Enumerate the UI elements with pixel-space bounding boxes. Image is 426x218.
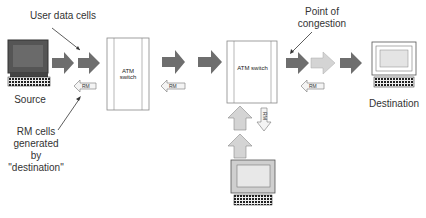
- rm-tag: RM: [169, 83, 177, 89]
- data-arrow-icon: [78, 52, 100, 74]
- atm-switch-1-label: ATM switch: [114, 68, 142, 80]
- data-arrow-icon: [162, 50, 185, 74]
- data-arrow-icon: [340, 52, 362, 74]
- data-arrow-icon: [52, 52, 74, 74]
- data-arrow-icon: [198, 50, 222, 74]
- rm-cells-label-line3: "destination": [8, 162, 64, 174]
- pointer-arrowhead-icon: [290, 49, 294, 54]
- congested-arrow-icon: [311, 52, 335, 74]
- data-arrow-up-icon: [228, 106, 252, 130]
- rm-cells-label-line2: generated by: [8, 138, 64, 162]
- destination-computer-icon: [372, 42, 416, 87]
- rm-tag: RM: [262, 112, 268, 120]
- pointer-arrowhead-icon: [76, 46, 80, 50]
- user-data-cells-label: User data cells: [28, 10, 98, 22]
- atm-switch-2: [227, 41, 277, 103]
- source-computer-icon: [8, 40, 50, 86]
- pointer-line: [292, 32, 312, 52]
- point-of-congestion-label: Point of congestion: [292, 6, 352, 30]
- point-of-congestion-line2: congestion: [292, 18, 352, 30]
- rm-tag: RM: [309, 83, 317, 89]
- atm-switch-2-label: ATM switch: [234, 65, 271, 71]
- data-arrow-up-icon: [228, 134, 252, 158]
- rm-tag: RM: [82, 83, 90, 89]
- rm-cells-label: RM cells generated by "destination": [8, 126, 64, 174]
- data-arrow-icon: [286, 52, 309, 74]
- pointer-line: [52, 28, 80, 50]
- source-label: Source: [8, 94, 52, 106]
- atm-flow-diagram: [0, 0, 426, 218]
- point-of-congestion-line1: Point of: [292, 6, 352, 18]
- rm-cells-label-line1: RM cells: [8, 126, 64, 138]
- pointer-arrowhead-icon: [76, 96, 81, 101]
- bottom-computer-icon: [231, 160, 275, 205]
- destination-label: Destination: [366, 98, 422, 110]
